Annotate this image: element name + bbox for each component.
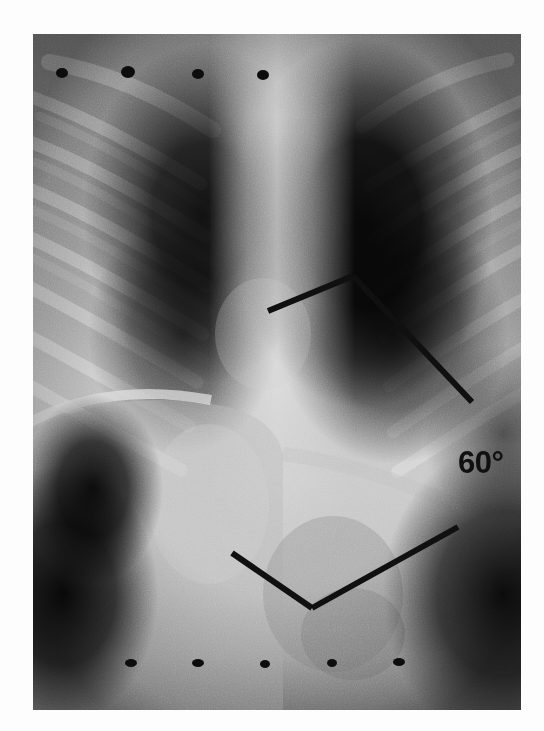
chest-radiograph-image <box>33 34 521 710</box>
film-grain <box>33 34 521 710</box>
cobb-angle-label: 60° <box>458 447 503 478</box>
screenshot-canvas: 60° <box>0 0 544 731</box>
